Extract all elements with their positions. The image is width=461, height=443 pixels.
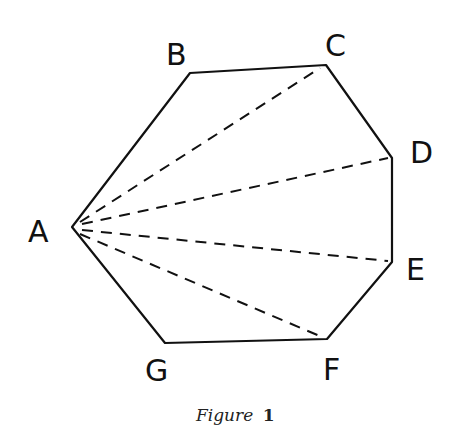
caption-word: Figure <box>195 405 253 425</box>
vertex-label-A: A <box>28 214 49 249</box>
diagonal-AE <box>82 230 388 261</box>
vertex-label-E: E <box>406 252 425 287</box>
vertex-label-G: G <box>145 353 168 388</box>
diagonal-AF <box>80 234 322 337</box>
caption-number: 1 <box>263 405 275 425</box>
vertex-label-B: B <box>166 37 187 72</box>
heptagon-diagram: A B C D E F G Figure 1 <box>0 0 461 443</box>
vertex-label-C: C <box>325 28 346 63</box>
figure-caption: Figure 1 <box>195 405 275 425</box>
heptagon-outline <box>72 65 392 343</box>
vertex-label-D: D <box>410 135 433 170</box>
vertex-label-F: F <box>323 352 340 387</box>
